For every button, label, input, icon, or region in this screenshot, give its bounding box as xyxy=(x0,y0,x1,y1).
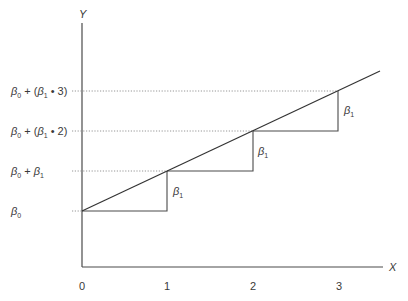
y-level-label-b0: β0 xyxy=(10,205,21,219)
regression-diagram: Y X 0 1 2 3 β1 β1 β1 β0 β0 + β1 β0 + (β1… xyxy=(0,0,408,301)
x-tick-0: 0 xyxy=(79,280,85,292)
y-level-label-b0-2b1: β0 + (β1 • 2) xyxy=(10,125,67,139)
regression-line xyxy=(82,71,380,211)
x-tick-1: 1 xyxy=(164,280,170,292)
step-label-1: β1 xyxy=(172,185,183,199)
x-tick-3: 3 xyxy=(336,280,342,292)
y-level-label-b0-b1: β0 + β1 xyxy=(10,165,44,179)
y-axis-label: Y xyxy=(79,8,87,20)
y-level-label-b0-3b1: β0 + (β1 • 3) xyxy=(10,85,67,99)
step-label-2: β1 xyxy=(257,145,268,159)
x-axis-label: X xyxy=(388,261,397,273)
x-tick-2: 2 xyxy=(250,280,256,292)
step-label-3: β1 xyxy=(343,104,354,118)
